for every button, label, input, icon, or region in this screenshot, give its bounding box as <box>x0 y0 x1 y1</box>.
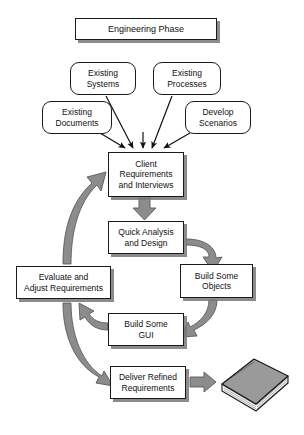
node-label: ExistingDocuments <box>43 107 111 128</box>
node-engineering-phase[interactable]: Engineering Phase <box>75 18 217 40</box>
book-stack-glyph <box>216 356 294 416</box>
node-quick-analysis[interactable]: Quick Analysisand Design <box>108 221 184 254</box>
node-label: ExistingSystems <box>71 68 135 89</box>
node-label: Deliver RefinedRequirements <box>111 372 185 393</box>
book-stack-icon <box>216 356 294 416</box>
node-label: ExistingProcesses <box>154 68 220 89</box>
node-evaluate-adjust[interactable]: Evaluate andAdjust Requirements <box>16 266 111 299</box>
node-label: ClientRequirementsand Interviews <box>109 159 183 190</box>
node-label: Engineering Phase <box>76 24 216 35</box>
edge-evaluate-to-client <box>63 172 106 264</box>
node-label: Evaluate andAdjust Requirements <box>17 272 110 293</box>
node-deliver-refined[interactable]: Deliver RefinedRequirements <box>110 366 186 399</box>
edge-client-to-quick-analysis <box>133 198 156 220</box>
node-develop-scenarios[interactable]: DevelopScenarios <box>185 101 251 134</box>
node-build-objects[interactable]: Build SomeObjects <box>180 264 253 298</box>
node-label: Quick Analysisand Design <box>109 227 183 248</box>
node-existing-processes[interactable]: ExistingProcesses <box>153 62 221 95</box>
edge-deliver-to-document <box>190 372 216 392</box>
edge-existing-processes-to-client <box>152 96 172 148</box>
flowchart-diagram: Engineering Phase ExistingSystems Existi… <box>0 0 304 435</box>
node-existing-documents[interactable]: ExistingDocuments <box>42 101 112 134</box>
edge-existing-documents-to-client <box>100 133 125 148</box>
node-label: DevelopScenarios <box>186 107 250 128</box>
node-client-requirements[interactable]: ClientRequirementsand Interviews <box>108 152 184 197</box>
node-build-gui[interactable]: Build SomeGUI <box>108 313 184 346</box>
node-label: Build SomeGUI <box>109 319 183 340</box>
edge-build-gui-to-evaluate <box>79 303 108 330</box>
node-label: Build SomeObjects <box>181 271 252 292</box>
edge-develop-scenarios-to-client <box>164 133 190 148</box>
edge-build-objects-to-build-gui <box>180 300 217 337</box>
node-existing-systems[interactable]: ExistingSystems <box>70 62 136 95</box>
